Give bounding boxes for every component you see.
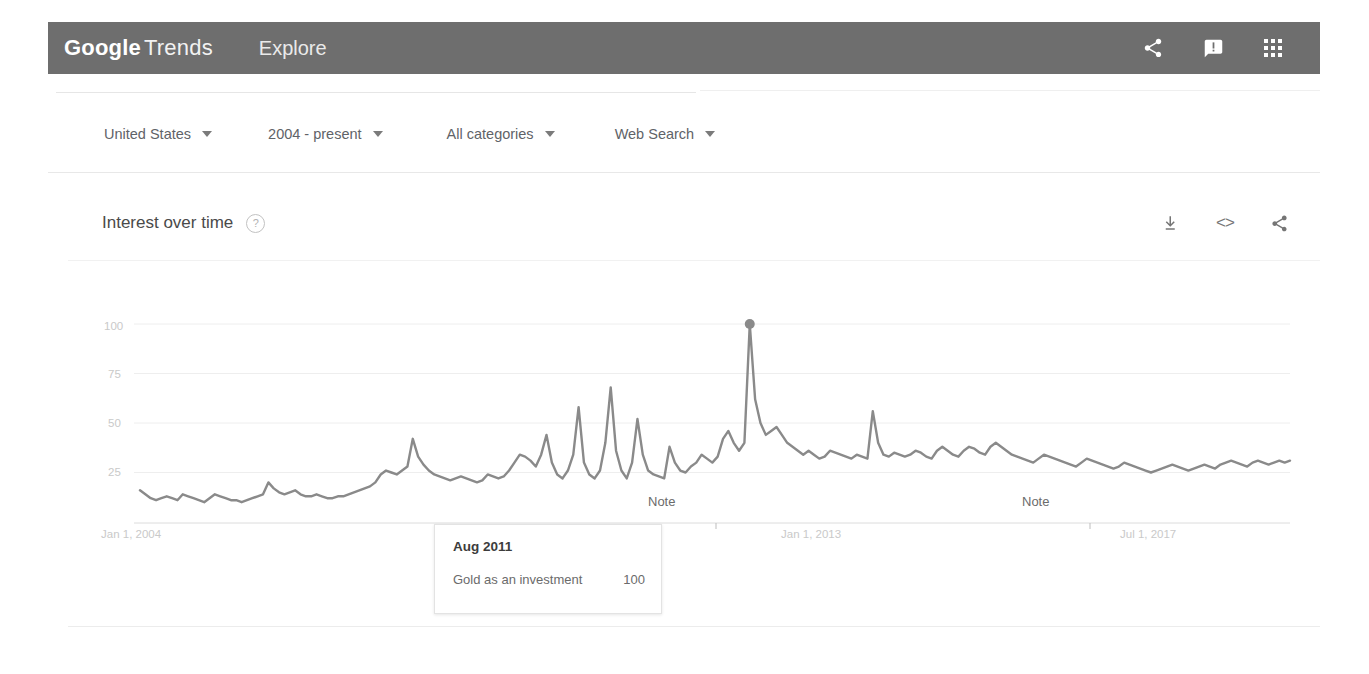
tooltip-row: Gold as an investment 100 bbox=[453, 572, 645, 587]
chevron-down-icon bbox=[202, 131, 212, 137]
brand-trends-text: Trends bbox=[144, 35, 213, 61]
page-title: Interest over time bbox=[102, 213, 233, 233]
nav-explore[interactable]: Explore bbox=[259, 37, 327, 60]
share-icon[interactable] bbox=[1268, 212, 1290, 234]
google-trends-page: Google Trends Explore bbox=[0, 0, 1369, 674]
tooltip-series-name: Gold as an investment bbox=[453, 572, 582, 587]
y-axis-tick-25: 25 bbox=[108, 466, 121, 478]
trend-line-chart[interactable] bbox=[68, 260, 1320, 626]
filter-search-type-label: Web Search bbox=[615, 126, 695, 142]
tooltip-date: Aug 2011 bbox=[453, 539, 645, 554]
filter-timerange[interactable]: 2004 - present bbox=[268, 126, 383, 142]
chevron-down-icon bbox=[373, 131, 383, 137]
annotation-note-1[interactable]: Note bbox=[648, 494, 675, 509]
x-axis-tick-2: Jan 1, 2013 bbox=[781, 528, 841, 540]
x-axis-tick-0: Jan 1, 2004 bbox=[101, 528, 161, 540]
tooltip-value: 100 bbox=[623, 572, 645, 587]
app-bar-actions bbox=[1140, 35, 1286, 61]
filter-location[interactable]: United States bbox=[104, 126, 212, 142]
filter-search-type[interactable]: Web Search bbox=[615, 126, 716, 142]
filter-bar: United States 2004 - present All categor… bbox=[48, 96, 1320, 173]
download-icon[interactable] bbox=[1160, 212, 1182, 234]
filter-category[interactable]: All categories bbox=[447, 126, 555, 142]
apps-grid-icon[interactable] bbox=[1260, 35, 1286, 61]
feedback-icon[interactable] bbox=[1200, 35, 1226, 61]
share-icon[interactable] bbox=[1140, 35, 1166, 61]
interest-over-time-card: Interest over time ? <> bbox=[68, 186, 1320, 627]
filter-location-label: United States bbox=[104, 126, 191, 142]
header-divider bbox=[56, 92, 696, 93]
brand-logo[interactable]: Google Trends bbox=[64, 35, 213, 61]
card-actions: <> bbox=[1160, 212, 1290, 234]
header-divider-right bbox=[700, 90, 1320, 91]
embed-code-icon[interactable]: <> bbox=[1214, 212, 1236, 234]
chevron-down-icon bbox=[705, 131, 715, 137]
y-axis-tick-50: 50 bbox=[108, 417, 121, 429]
filter-timerange-label: 2004 - present bbox=[268, 126, 362, 142]
chart-plot-area[interactable]: 100 75 50 25 Jan 1, 2004 Jul 1, 2008 Jan… bbox=[68, 260, 1320, 626]
trend-line-series bbox=[140, 324, 1290, 502]
help-circle-icon[interactable]: ? bbox=[246, 214, 265, 233]
app-bar: Google Trends Explore bbox=[48, 22, 1320, 74]
y-axis-tick-75: 75 bbox=[108, 368, 121, 380]
y-axis-tick-100: 100 bbox=[104, 320, 123, 332]
chart-tooltip: Aug 2011 Gold as an investment 100 bbox=[434, 524, 662, 614]
x-axis-tick-3: Jul 1, 2017 bbox=[1120, 528, 1176, 540]
brand-google-text: Google bbox=[64, 35, 141, 61]
chevron-down-icon bbox=[545, 131, 555, 137]
filter-category-label: All categories bbox=[447, 126, 534, 142]
highlighted-data-point[interactable] bbox=[745, 319, 755, 329]
annotation-note-2[interactable]: Note bbox=[1022, 494, 1049, 509]
card-header: Interest over time ? <> bbox=[68, 186, 1320, 261]
